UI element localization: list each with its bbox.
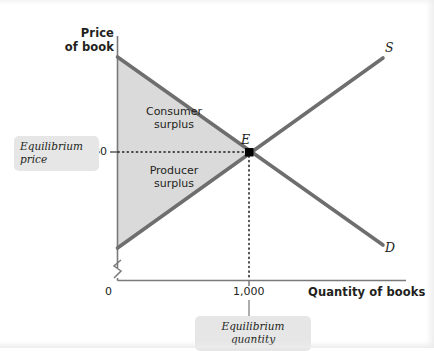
x-tick-label-1000: 1,000 [233,286,265,299]
demand-curve-label: D [385,241,395,256]
consumer-surplus-label-line2: surplus [131,119,217,132]
equilibrium-quantity-callout: Equilibrium quantity [195,316,311,351]
y-axis-title: Price of book [52,27,114,54]
supply-curve-label: S [385,41,394,56]
x-tick-label-0: 0 [105,286,112,299]
x-axis-title: Quantity of books [308,286,425,300]
producer-surplus-label: Producer surplus [131,165,217,191]
equilibrium-point-label: E [241,133,250,148]
consumer-surplus-label: Consumer surplus [131,106,217,132]
equilibrium-point-marker [245,148,254,157]
y-axis-title-line2: of book [52,41,114,55]
y-axis-break-icon [114,260,121,278]
producer-surplus-label-line2: surplus [131,178,217,191]
equilibrium-price-callout-line1: Equilibrium [20,140,94,153]
y-axis-title-line1: Price [52,27,114,41]
equilibrium-price-callout-line2: price [20,153,94,166]
equilibrium-price-callout: Equilibrium price [14,136,99,171]
